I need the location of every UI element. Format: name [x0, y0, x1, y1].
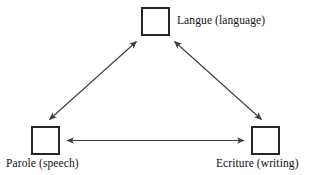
- node-label-parole: Parole (speech): [6, 157, 79, 170]
- node-label-ecriture: Ecriture (writing): [216, 157, 299, 170]
- diagram-canvas: Langue (language) Parole (speech) Ecritu…: [0, 0, 319, 175]
- node-box-langue: [141, 7, 170, 36]
- edge-langue-ecriture: [175, 42, 262, 120]
- node-box-parole: [31, 126, 60, 155]
- node-box-ecriture: [251, 126, 280, 155]
- node-label-langue: Langue (language): [177, 14, 265, 27]
- edge-langue-parole: [50, 42, 137, 120]
